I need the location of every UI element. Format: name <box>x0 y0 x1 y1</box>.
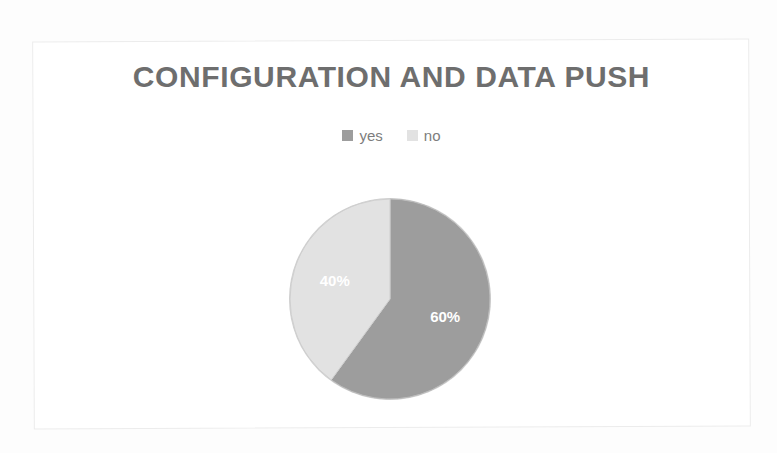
legend-label-yes: yes <box>359 128 382 143</box>
legend-item-no[interactable]: no <box>407 128 441 143</box>
legend-label-no: no <box>424 128 441 143</box>
pie-svg: 60% 40% <box>288 197 492 401</box>
pie-data-label-no: 40% <box>320 272 350 289</box>
chart-title: CONFIGURATION AND DATA PUSH <box>33 60 750 94</box>
chart-legend: yes no <box>33 128 750 143</box>
legend-swatch-yes-icon <box>342 130 353 141</box>
legend-item-yes[interactable]: yes <box>342 128 382 143</box>
pie-chart-container: CONFIGURATION AND DATA PUSH yes no 60% 4… <box>33 40 750 428</box>
legend-swatch-no-icon <box>407 130 418 141</box>
pie-data-label-yes: 60% <box>430 308 460 325</box>
pie-graphic: 60% 40% <box>288 197 492 401</box>
